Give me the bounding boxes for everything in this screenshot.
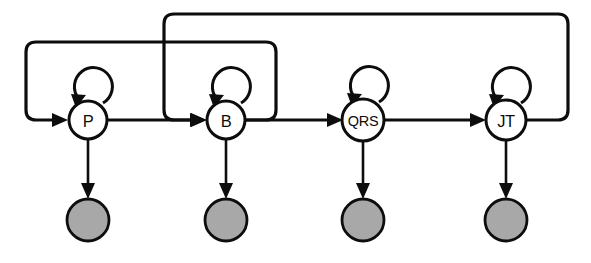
transition-p-to-b xyxy=(107,113,207,127)
transition-qrs-to-jt-arrowhead xyxy=(470,113,486,127)
emission-jt xyxy=(499,140,513,199)
observation-node-b[interactable] xyxy=(205,199,247,241)
emission-b xyxy=(219,139,233,199)
state-node-b-label: B xyxy=(221,112,232,130)
state-node-b[interactable]: B xyxy=(207,101,245,139)
emission-qrs xyxy=(356,141,370,199)
state-node-jt[interactable]: JT xyxy=(486,100,526,140)
emission-qrs-arrowhead xyxy=(356,183,370,199)
state-node-qrs-label: QRS xyxy=(348,113,379,129)
transition-qrs-to-jt xyxy=(384,113,486,127)
transition-b-to-qrs xyxy=(245,113,343,127)
feedback-loop-b-to-p-arrowhead xyxy=(52,113,68,127)
observation-node-jt[interactable] xyxy=(485,199,527,241)
emission-p xyxy=(81,139,95,199)
observation-node-p[interactable] xyxy=(67,199,109,241)
state-node-p-label: P xyxy=(83,112,94,130)
state-node-p[interactable]: P xyxy=(69,101,107,139)
transition-p-to-b-arrowhead xyxy=(191,113,207,127)
state-node-qrs[interactable]: QRS xyxy=(342,99,384,141)
emission-jt-arrowhead xyxy=(499,183,513,199)
emission-b-arrowhead xyxy=(219,183,233,199)
state-diagram: P B QRS JT xyxy=(0,0,591,263)
diagram-canvas: P B QRS JT xyxy=(0,0,591,263)
observation-node-qrs[interactable] xyxy=(342,199,384,241)
emission-p-arrowhead xyxy=(81,183,95,199)
state-node-jt-label: JT xyxy=(497,112,515,130)
